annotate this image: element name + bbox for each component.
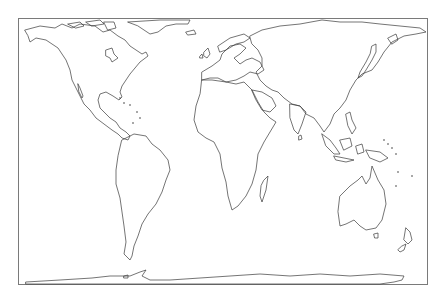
south-america-outline (116, 134, 170, 260)
caribbean-island-dot (119, 97, 121, 99)
asia-outline (250, 20, 426, 132)
antarctica-outline (26, 270, 404, 284)
baja-california-outline (78, 84, 83, 98)
iceland-outline (186, 30, 196, 35)
pacific-island-dot (397, 171, 399, 173)
pacific-island-dot (391, 147, 393, 149)
philippines-outline (346, 112, 356, 134)
japan-outline (358, 44, 376, 78)
africa-outline (194, 80, 276, 210)
madagascar-outline (260, 176, 268, 202)
caribbean-island-dot (123, 102, 125, 104)
europe-outline (202, 44, 264, 82)
kamchatka-outline (388, 34, 398, 44)
pacific-island-dot (411, 175, 413, 177)
tasmania-outline (374, 233, 378, 238)
world-map (0, 0, 445, 292)
arabian-peninsula-outline (252, 90, 276, 112)
new-zealand-outline (398, 228, 412, 252)
north-america-outline (25, 24, 148, 140)
indonesia-outline (322, 134, 388, 162)
map-frame (19, 19, 428, 285)
caribbean-island-dot (136, 111, 138, 113)
india-outline (290, 104, 306, 134)
british-isles-outline (200, 48, 210, 58)
australia-outline (338, 166, 386, 230)
pacific-island-dot (387, 143, 389, 145)
pacific-island-dot (383, 139, 385, 141)
pacific-island-dot (395, 153, 397, 155)
arctic-islands-outline (68, 20, 116, 30)
pacific-island-dot (395, 185, 397, 187)
caribbean-island-dot (139, 117, 141, 119)
antarctic-island-outline (124, 275, 128, 278)
caribbean-island-dot (132, 122, 134, 124)
sri-lanka-outline (299, 135, 302, 140)
caribbean-island-dot (129, 104, 131, 106)
greenland-outline (128, 20, 190, 34)
scandinavia-outline (218, 34, 250, 52)
hudson-bay-outline (106, 48, 118, 62)
